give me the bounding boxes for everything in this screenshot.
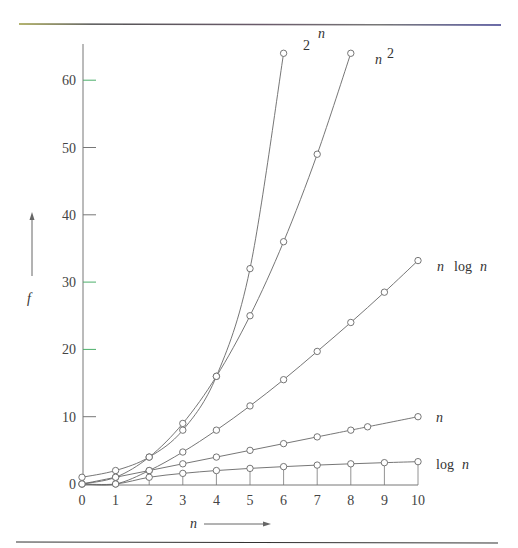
data-point-marker bbox=[280, 376, 286, 382]
data-point-marker bbox=[146, 454, 152, 460]
y-tick-label: 20 bbox=[62, 342, 76, 357]
data-point-marker bbox=[146, 467, 152, 473]
data-point-marker bbox=[247, 403, 253, 409]
y-axis-label-group: f bbox=[27, 212, 35, 306]
complexity-growth-chart: 0102030405060 012345678910 f n 2 n n 2 n… bbox=[0, 0, 518, 548]
data-point-marker bbox=[213, 467, 219, 473]
up-arrowhead-icon bbox=[30, 212, 35, 220]
label-n-log-n: n log n bbox=[437, 259, 487, 274]
y-tick-label: 50 bbox=[62, 141, 76, 156]
label-n-squared: n 2 bbox=[375, 46, 394, 67]
data-point-marker bbox=[314, 434, 320, 440]
data-point-marker bbox=[247, 447, 253, 453]
data-point-marker bbox=[213, 454, 219, 460]
x-tick-label: 0 bbox=[79, 493, 86, 508]
data-point-marker bbox=[247, 313, 253, 319]
svg-text:2: 2 bbox=[303, 38, 310, 53]
data-point-marker bbox=[180, 427, 186, 433]
data-point-marker bbox=[247, 265, 253, 271]
svg-text:n: n bbox=[318, 26, 325, 41]
data-point-marker bbox=[280, 463, 286, 469]
y-tick-label: 0 bbox=[69, 477, 76, 492]
data-point-marker bbox=[314, 151, 320, 157]
svg-text:log: log bbox=[454, 259, 472, 274]
y-axis-label: f bbox=[27, 291, 33, 306]
svg-text:n: n bbox=[480, 259, 487, 274]
data-point-marker bbox=[348, 50, 354, 56]
data-point-marker bbox=[314, 462, 320, 468]
data-point-marker bbox=[348, 319, 354, 325]
data-point-marker bbox=[180, 461, 186, 467]
x-tick-label: 4 bbox=[213, 493, 220, 508]
series-markers bbox=[79, 50, 421, 487]
x-tick-label: 2 bbox=[146, 493, 153, 508]
data-point-marker bbox=[112, 467, 118, 473]
x-axis-label-group: n bbox=[190, 516, 271, 531]
data-point-marker bbox=[415, 257, 421, 263]
curve-n-2 bbox=[82, 53, 351, 484]
bottom-rule bbox=[16, 542, 498, 543]
y-axis: 0102030405060 bbox=[62, 44, 96, 492]
y-tick-label: 30 bbox=[62, 275, 76, 290]
x-tick-label: 5 bbox=[247, 493, 254, 508]
x-tick-label: 10 bbox=[411, 493, 425, 508]
label-2-pow-n: 2 n bbox=[303, 26, 325, 53]
top-rule bbox=[19, 24, 501, 25]
data-point-marker bbox=[381, 459, 387, 465]
data-point-marker bbox=[415, 458, 421, 464]
data-point-marker bbox=[415, 414, 421, 420]
y-tick-label: 40 bbox=[62, 208, 76, 223]
data-point-marker bbox=[180, 470, 186, 476]
curve-2-n bbox=[82, 53, 284, 477]
x-tick-label: 3 bbox=[179, 493, 186, 508]
data-point-marker bbox=[247, 465, 253, 471]
svg-text:2: 2 bbox=[387, 46, 394, 61]
data-point-marker bbox=[348, 427, 354, 433]
data-point-marker bbox=[213, 373, 219, 379]
x-tick-label: 7 bbox=[314, 493, 321, 508]
svg-text:n: n bbox=[437, 259, 444, 274]
data-point-marker bbox=[79, 481, 85, 487]
data-point-marker bbox=[348, 461, 354, 467]
x-tick-label: 1 bbox=[112, 493, 119, 508]
data-point-marker bbox=[180, 449, 186, 455]
x-axis: 012345678910 bbox=[79, 485, 426, 508]
x-tick-label: 9 bbox=[381, 493, 388, 508]
data-point-marker bbox=[280, 440, 286, 446]
data-point-marker bbox=[146, 474, 152, 480]
data-point-marker bbox=[180, 420, 186, 426]
data-point-marker bbox=[213, 427, 219, 433]
y-tick-label: 60 bbox=[62, 73, 76, 88]
right-arrowhead-icon bbox=[263, 522, 271, 527]
data-point-marker bbox=[79, 474, 85, 480]
data-point-marker bbox=[280, 239, 286, 245]
svg-text:n: n bbox=[375, 52, 382, 67]
data-point-marker bbox=[112, 474, 118, 480]
x-axis-label: n bbox=[190, 516, 197, 531]
data-point-marker bbox=[314, 348, 320, 354]
label-log-n: log n bbox=[436, 457, 469, 472]
svg-text:log: log bbox=[436, 457, 454, 472]
data-point-marker bbox=[381, 289, 387, 295]
x-tick-label: 8 bbox=[347, 493, 354, 508]
label-n: n bbox=[436, 410, 443, 425]
data-point-marker bbox=[112, 481, 118, 487]
data-point-marker bbox=[364, 424, 370, 430]
x-tick-label: 6 bbox=[280, 493, 287, 508]
data-point-marker bbox=[280, 50, 286, 56]
y-tick-label: 10 bbox=[62, 410, 76, 425]
svg-text:n: n bbox=[436, 410, 443, 425]
svg-text:n: n bbox=[462, 457, 469, 472]
